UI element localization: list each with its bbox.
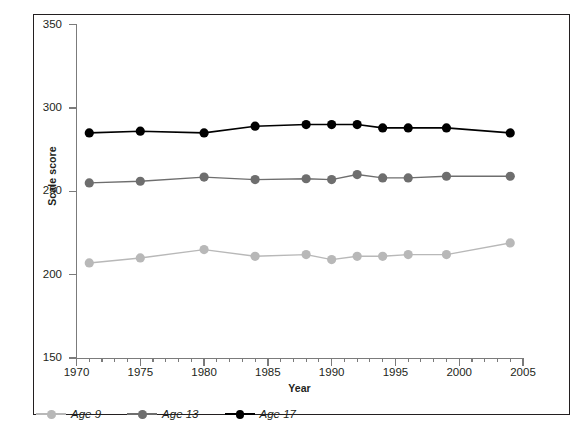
legend-marker-icon	[225, 408, 255, 420]
chart-legend: Age 9Age 13Age 17	[36, 408, 296, 420]
legend-label: Age 17	[260, 408, 296, 420]
legend-label: Age 13	[162, 408, 198, 420]
legend-item-age-17[interactable]: Age 17	[225, 408, 296, 420]
legend-marker-icon	[36, 408, 66, 420]
legend-label: Age 9	[71, 408, 101, 420]
chart-frame	[33, 14, 570, 415]
chart-page: 150200250300350 197019751980198519901995…	[0, 0, 585, 446]
legend-item-age-9[interactable]: Age 9	[36, 408, 101, 420]
legend-marker-icon	[127, 408, 157, 420]
legend-item-age-13[interactable]: Age 13	[127, 408, 198, 420]
